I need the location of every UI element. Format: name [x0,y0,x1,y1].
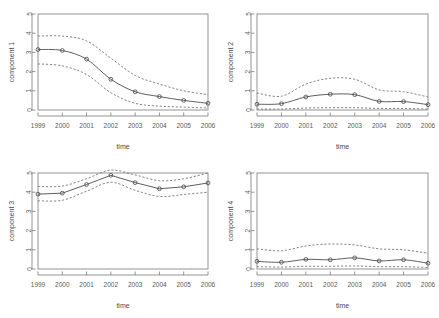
x-tick-label: 2005 [396,281,411,288]
x-tick-label: 2001 [299,122,314,129]
x-tick-label: 2003 [128,122,143,129]
y-tick-label: 3 [26,209,33,213]
y-tick-label: 5 [245,12,252,16]
x-tick-label: 2003 [347,281,362,288]
x-tick-label: 2000 [274,122,289,129]
y-tick-label: 0 [26,108,33,112]
y-tick-label: 3 [245,50,252,54]
panel-1-plot: 012345component 119992000200120022003200… [0,0,219,159]
y-tick-label: 0 [245,267,252,271]
x-tick-label: 2003 [128,281,143,288]
plot-frame [38,14,208,110]
x-axis-title: time [116,143,129,150]
confidence-band-line [257,266,428,268]
x-tick-label: 2005 [396,122,411,129]
x-tick-label: 2006 [201,281,216,288]
y-tick-label: 2 [245,69,252,73]
x-tick-label: 2005 [176,122,191,129]
x-tick-label: 2004 [372,122,387,129]
y-tick-label: 1 [26,89,33,93]
y-tick-label: 4 [26,31,33,35]
panel-3-plot: 012345component 319992000200120022003200… [0,159,219,318]
y-tick-label: 1 [245,89,252,93]
y-tick-label: 5 [245,171,252,175]
x-tick-label: 2004 [152,281,167,288]
panel-component-3: 012345component 319992000200120022003200… [0,159,219,318]
panel-component-1: 012345component 119992000200120022003200… [0,0,219,159]
y-tick-label: 4 [26,190,33,194]
y-tick-label: 0 [245,108,252,112]
y-tick-label: 3 [245,209,252,213]
x-tick-label: 2002 [323,281,338,288]
x-tick-label: 1999 [31,122,46,129]
x-tick-label: 2000 [55,281,70,288]
multi-panel-figure: 012345component 119992000200120022003200… [0,0,439,318]
x-tick-label: 2004 [372,281,387,288]
x-axis-title: time [336,302,349,309]
estimate-line [38,49,208,103]
y-tick-label: 1 [245,248,252,252]
x-axis-title: time [336,143,349,150]
x-tick-label: 2002 [323,122,338,129]
panel-component-4: 012345component 419992000200120022003200… [219,159,439,318]
x-tick-label: 1999 [250,122,265,129]
x-tick-label: 2006 [421,122,436,129]
y-tick-label: 1 [26,248,33,252]
x-tick-label: 2004 [152,122,167,129]
y-tick-label: 2 [245,228,252,232]
y-axis-title: component 3 [8,201,16,242]
x-tick-label: 1999 [250,281,265,288]
y-tick-label: 2 [26,69,33,73]
plot-frame [38,173,208,269]
x-tick-label: 2000 [55,122,70,129]
y-tick-label: 5 [26,171,33,175]
x-tick-label: 2001 [299,281,314,288]
confidence-band-line [257,108,428,109]
x-tick-label: 2005 [176,281,191,288]
x-tick-label: 2006 [421,281,436,288]
x-tick-label: 2001 [79,281,94,288]
panel-4-plot: 012345component 419992000200120022003200… [219,159,439,318]
x-tick-label: 2002 [104,122,119,129]
y-tick-label: 3 [26,50,33,54]
plot-frame [257,173,428,269]
confidence-band-line [38,36,208,95]
x-tick-label: 1999 [31,281,46,288]
y-tick-label: 0 [26,267,33,271]
y-axis-title: component 2 [227,42,235,83]
x-tick-label: 2002 [104,281,119,288]
x-axis-title: time [116,302,129,309]
confidence-band-line [38,170,208,187]
y-tick-label: 2 [26,228,33,232]
y-axis-title: component 4 [227,201,235,242]
x-tick-label: 2006 [201,122,216,129]
y-tick-label: 4 [245,190,252,194]
y-tick-label: 4 [245,31,252,35]
x-tick-label: 2000 [274,281,289,288]
x-tick-label: 2001 [79,122,94,129]
x-tick-label: 2003 [347,122,362,129]
panel-component-2: 012345component 219992000200120022003200… [219,0,439,159]
panel-2-plot: 012345component 219992000200120022003200… [219,0,439,159]
y-tick-label: 5 [26,12,33,16]
y-axis-title: component 1 [8,42,16,83]
confidence-band-line [257,244,428,253]
